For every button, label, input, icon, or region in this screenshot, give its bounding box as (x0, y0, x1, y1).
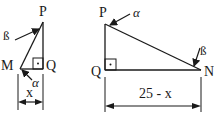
right-angle-dot (37, 63, 39, 65)
label-alpha-right: α (133, 5, 141, 20)
segment-pn (105, 24, 201, 70)
arrowhead-right-icon (35, 99, 43, 105)
label-alpha-left: α (32, 75, 40, 90)
label-p-right: P (99, 5, 107, 20)
label-beta-left: ß (3, 28, 10, 43)
label-m: M (1, 58, 14, 73)
label-q-left: Q (46, 58, 56, 73)
label-dimension-25-x: 25 - x (139, 86, 172, 101)
label-q-right: Q (91, 64, 101, 79)
right-angle-dot-right (110, 64, 112, 66)
segment-mp (20, 22, 43, 69)
arrowhead-left-right-icon (105, 103, 114, 109)
label-p-left: P (39, 4, 47, 19)
arrowhead-left-icon (18, 99, 26, 105)
arrowhead-right-right-icon (192, 103, 201, 109)
diagram-canvas: P M Q ß α x P Q N α ß 25 - x (0, 0, 214, 116)
alpha-arrow-icon (22, 70, 32, 80)
label-dimension-x: x (26, 85, 33, 100)
label-n: N (204, 64, 214, 79)
label-beta-right: ß (200, 43, 207, 58)
alpha-arrow-right-icon (110, 14, 130, 25)
